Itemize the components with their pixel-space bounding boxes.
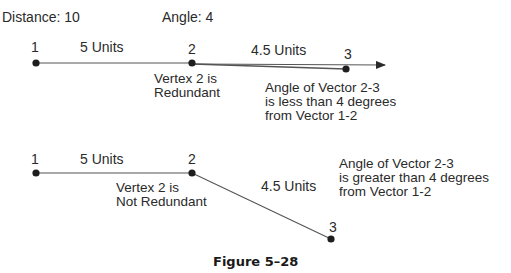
vertex-1-label: 1 (31, 40, 39, 55)
vertex-3-dot (327, 235, 334, 242)
vertex-3-label: 3 (329, 220, 337, 235)
vertex-2-not-redundant-note: Vertex 2 is Not Redundant (116, 181, 207, 209)
segment-1-2-length: 5 Units (80, 40, 124, 55)
vertex-2-dot (188, 59, 195, 66)
vertex-2-label: 2 (188, 42, 196, 57)
angle-less-note: Angle of Vector 2-3 is less than 4 degre… (265, 81, 396, 123)
segment-1-2-length: 5 Units (80, 152, 124, 167)
vertex-2-dot (188, 169, 195, 176)
segment-2-3-length: 4.5 Units (261, 179, 316, 194)
vertex-3-label: 3 (344, 47, 352, 62)
vertex-1-label: 1 (31, 152, 39, 167)
figure-caption: Figure 5–28 (213, 254, 298, 269)
vertex-1-dot (32, 59, 39, 66)
vertex-3-dot (342, 65, 349, 72)
vertex-2-label: 2 (188, 152, 196, 167)
vertex-2-redundant-note: Vertex 2 is Redundant (154, 72, 220, 100)
angle-greater-note: Angle of Vector 2-3 is greater than 4 de… (339, 157, 489, 199)
vertex-1-dot (32, 169, 39, 176)
segment-2-3-length: 4.5 Units (251, 43, 306, 58)
diagram-canvas (0, 0, 511, 273)
